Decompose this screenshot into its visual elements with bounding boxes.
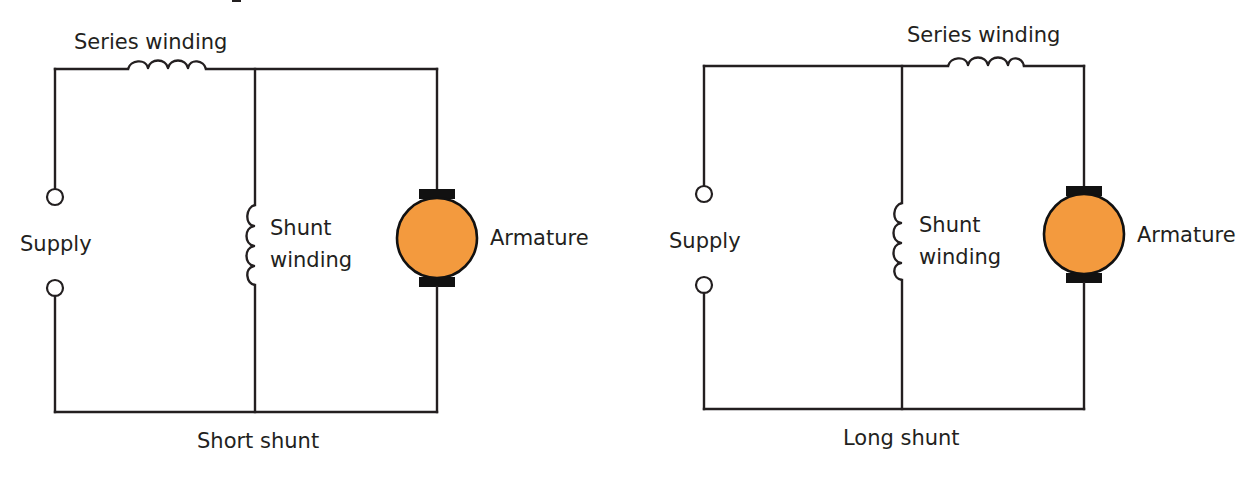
armature-motor-icon <box>1044 194 1124 274</box>
short-shunt-caption: Short shunt <box>197 429 319 453</box>
supply-label: Supply <box>20 232 92 256</box>
cropped-text-fragment <box>232 0 241 2</box>
supply-terminal-negative-icon <box>696 277 712 293</box>
series-winding-coil-icon <box>128 61 206 70</box>
long-shunt-caption: Long shunt <box>843 426 960 450</box>
armature-label: Armature <box>1137 223 1236 247</box>
long-shunt-circuit: Series winding Supply Shunt winding Arma… <box>669 23 1236 450</box>
shunt-winding-label-line1: Shunt <box>270 216 332 240</box>
series-winding-coil-icon <box>948 58 1024 67</box>
series-winding-label: Series winding <box>907 23 1060 47</box>
supply-terminal-positive-icon <box>47 189 63 205</box>
supply-terminal-positive-icon <box>696 186 712 202</box>
supply-terminal-negative-icon <box>47 280 63 296</box>
shunt-winding-label-line2: winding <box>919 245 1001 269</box>
series-winding-label: Series winding <box>74 30 227 54</box>
shunt-winding-label-line2: winding <box>270 248 352 272</box>
shunt-winding-coil-icon <box>894 203 903 280</box>
shunt-winding-label-line1: Shunt <box>919 213 981 237</box>
short-shunt-circuit: Series winding Supply Shunt winding Arma… <box>20 30 589 453</box>
armature-label: Armature <box>490 226 589 250</box>
supply-label: Supply <box>669 229 741 253</box>
shunt-winding-coil-icon <box>247 205 256 285</box>
compound-motor-diagrams: Series winding Supply Shunt winding Arma… <box>0 0 1258 477</box>
armature-motor-icon <box>397 198 477 278</box>
